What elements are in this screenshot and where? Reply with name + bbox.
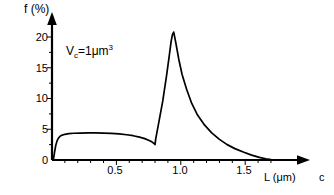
chart-figure: f (%) L (μm) c Vc=1μm3 0 5 10 15 20 0.5 … <box>0 0 334 195</box>
axis-ticks <box>47 37 271 165</box>
y-axis-arrow <box>47 12 57 25</box>
xtick-label: 1.5 <box>229 164 259 176</box>
ytick-label: 5 <box>26 123 48 135</box>
ytick-label: 20 <box>26 31 48 43</box>
ytick-label: 0 <box>26 154 48 166</box>
ytick-label: 10 <box>26 92 48 104</box>
data-curve-series-0 <box>53 32 271 160</box>
x-axis-arrow <box>297 155 310 165</box>
ytick-label: 15 <box>26 62 48 74</box>
xtick-label: 0.5 <box>100 164 130 176</box>
xtick-label: 1.0 <box>165 164 195 176</box>
